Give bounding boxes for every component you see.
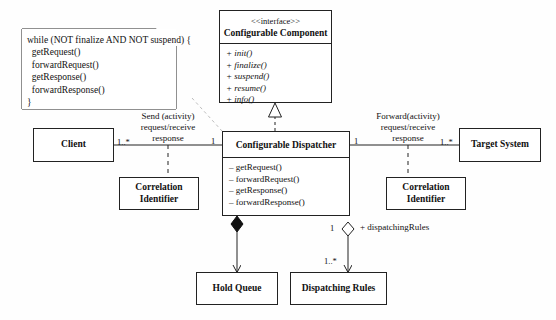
composition-diamond xyxy=(231,216,243,232)
multiplicity-dispatcher-rules-source: 1 xyxy=(330,223,334,233)
operation-init: + init() xyxy=(226,48,326,60)
class-name-correlation-identifier-right: Correlation Identifier xyxy=(402,182,449,205)
class-name-target-system: Target System xyxy=(471,139,529,151)
class-name-hold-queue: Hold Queue xyxy=(213,283,262,295)
note-text: while (NOT finalize AND NOT suspend) { g… xyxy=(27,34,191,108)
class-configurable-component[interactable]: <<interface>> Configurable Component + i… xyxy=(219,10,332,103)
multiplicity-dispatcher-right: 1 xyxy=(354,136,358,146)
aggregation-diamond xyxy=(342,222,354,236)
role-dispatching-rules: + dispatchingRules xyxy=(360,222,429,232)
operation-suspend: + suspend() xyxy=(226,71,326,83)
operation-finalize: + finalize() xyxy=(226,60,326,72)
interface-stereotype: <<interface>> xyxy=(222,15,329,27)
operation-get-response: – getResponse() xyxy=(229,185,344,197)
operations-configurable-component: + init() + finalize() + suspend() + resu… xyxy=(220,44,331,110)
class-dispatching-rules[interactable]: Dispatching Rules xyxy=(290,272,387,305)
class-name-configurable-dispatcher: Configurable Dispatcher xyxy=(223,132,349,157)
operation-get-request: – getRequest() xyxy=(229,162,344,174)
multiplicity-dispatching-rules-target: 1..* xyxy=(324,256,337,266)
class-client[interactable]: Client xyxy=(33,128,114,162)
class-hold-queue[interactable]: Hold Queue xyxy=(196,272,278,305)
class-correlation-identifier-right[interactable]: Correlation Identifier xyxy=(386,177,466,210)
class-title-configurable-component: <<interface>> Configurable Component xyxy=(220,11,331,43)
class-configurable-dispatcher[interactable]: Configurable Dispatcher – getRequest() –… xyxy=(222,131,350,216)
operations-configurable-dispatcher: – getRequest() – forwardRequest() – getR… xyxy=(223,158,349,212)
operation-forward-response: – forwardResponse() xyxy=(229,197,344,209)
operation-info: + info() xyxy=(226,94,326,106)
class-correlation-identifier-left[interactable]: Correlation Identifier xyxy=(119,177,199,210)
dispatcher-loop-note: while (NOT finalize AND NOT suspend) { g… xyxy=(22,29,176,109)
uml-class-diagram: while (NOT finalize AND NOT suspend) { g… xyxy=(0,0,556,320)
multiplicity-dispatcher-left: 1 xyxy=(211,136,215,146)
multiplicity-client: 1..* xyxy=(117,137,130,147)
class-name-dispatching-rules: Dispatching Rules xyxy=(302,283,376,295)
class-name-configurable-component: Configurable Component xyxy=(224,28,328,38)
operation-forward-request: – forwardRequest() xyxy=(229,174,344,186)
class-name-correlation-identifier-left: Correlation Identifier xyxy=(135,182,182,205)
class-name-client: Client xyxy=(61,139,86,151)
multiplicity-target-system: 1..* xyxy=(440,137,453,147)
class-target-system[interactable]: Target System xyxy=(459,128,541,162)
operation-resume: + resume() xyxy=(226,83,326,95)
